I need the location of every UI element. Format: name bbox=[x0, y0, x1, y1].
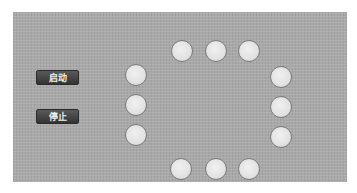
lamp-5 bbox=[270, 96, 292, 118]
lamp-11 bbox=[125, 94, 147, 116]
stop-button[interactable]: 停止 bbox=[36, 109, 79, 124]
control-panel bbox=[13, 12, 347, 182]
lamp-2 bbox=[205, 40, 227, 62]
lamp-8 bbox=[205, 158, 227, 180]
lamp-3 bbox=[238, 40, 260, 62]
lamp-4 bbox=[270, 66, 292, 88]
lamp-9 bbox=[170, 158, 192, 180]
lamp-6 bbox=[270, 126, 292, 148]
start-button[interactable]: 启动 bbox=[36, 70, 79, 85]
lamp-12 bbox=[125, 64, 147, 86]
lamp-7 bbox=[238, 158, 260, 180]
lamp-10 bbox=[125, 124, 147, 146]
lamp-1 bbox=[171, 40, 193, 62]
